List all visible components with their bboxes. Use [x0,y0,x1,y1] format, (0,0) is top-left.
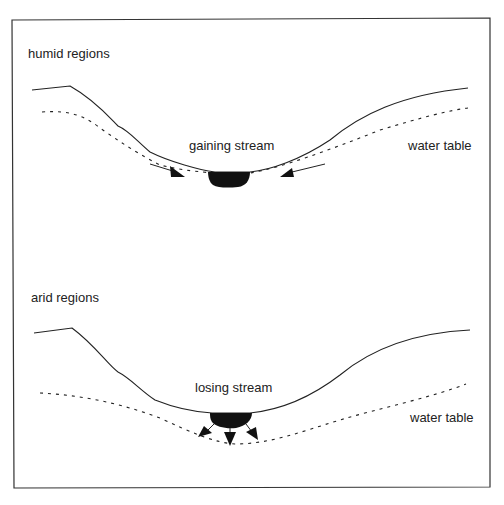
arid-water-table-label: water table [410,410,474,425]
arid-regions-title: arid regions [31,290,99,305]
gaining-stream-body [208,172,250,188]
stream-diagram [0,0,504,505]
humid-land-surface [32,86,468,172]
arid-land-surface [34,328,470,413]
losing-stream-body [210,413,252,428]
losing-stream-label: losing stream [195,380,272,395]
humid-regions-title: humid regions [28,46,110,61]
humid-water-table-label: water table [408,138,472,153]
gaining-stream-label: gaining stream [189,138,274,153]
